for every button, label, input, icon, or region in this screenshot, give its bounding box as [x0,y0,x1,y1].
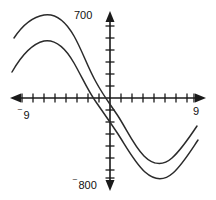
y-axis-min-label: ⁻800 [72,176,97,191]
y-axis [106,11,115,191]
curve-upper [14,15,197,164]
x-axis-left-arrow-icon [10,94,21,103]
graph-canvas [0,0,216,200]
curve-lower [12,41,198,179]
plotted-curves [12,15,198,179]
coordinate-graph-figure: 700 ⁻800 ⁻9 9 [0,0,216,200]
y-axis-min-value: 800 [79,179,97,191]
x-axis-right-arrow-icon [195,94,206,103]
x-axis-min-value: 9 [24,109,30,121]
x-axis-max-label: 9 [193,106,199,117]
y-axis-max-label: 700 [74,10,92,21]
y-axis-up-arrow-icon [106,11,115,22]
x-axis-min-label: ⁻9 [17,106,30,121]
y-axis-min-negative-sign: ⁻ [72,176,78,187]
x-axis-min-negative-sign: ⁻ [17,106,23,117]
y-axis-down-arrow-icon [106,180,115,191]
